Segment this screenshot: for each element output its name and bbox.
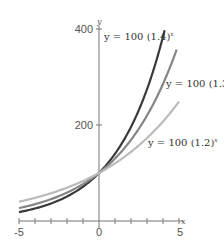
x-tick-label-zero: 0 [96,226,102,238]
exponential-chart: -5 0 5 200 400 x y y = 100 (1.4)x y = 10… [0,0,224,241]
svg-text:y = 100 (1.3)x: y = 100 (1.3)x [165,77,224,89]
y-axis-name: y [96,17,102,26]
x-tick-label-min: -5 [14,226,24,238]
y-tick-label-200: 200 [75,119,93,131]
x-tick-label-max: 5 [177,226,183,238]
svg-text:y = 100 (1.2)x: y = 100 (1.2)x [147,136,218,148]
curve-label-1-3: y = 100 (1.3)x [165,77,224,89]
y-tick-label-400: 400 [75,23,93,35]
curve-label-1-4: y = 100 (1.4)x [103,30,174,42]
curve-label-1-2: y = 100 (1.2)x [147,136,218,148]
svg-text:y = 100 (1.4)x: y = 100 (1.4)x [103,30,174,42]
x-axis-name: x [181,217,186,226]
